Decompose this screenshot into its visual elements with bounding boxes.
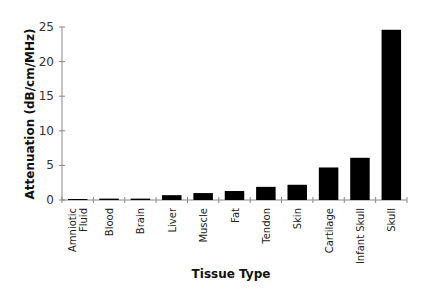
x-tick-label: Infant Skull xyxy=(355,208,366,264)
x-tick-label: Fat xyxy=(230,208,241,223)
x-tick-label: Skin xyxy=(292,208,303,229)
bar xyxy=(68,199,88,200)
x-tick-label: Blood xyxy=(104,208,115,236)
bar xyxy=(193,193,213,200)
x-tick-label: Muscle xyxy=(198,208,209,243)
x-tick-label: Tendon xyxy=(261,208,272,245)
bars xyxy=(68,30,401,200)
x-tick-label: Fluid xyxy=(78,208,89,232)
bar xyxy=(162,195,182,200)
bar xyxy=(287,185,307,200)
y-tick-label: 20 xyxy=(39,55,54,69)
y-tick-label: 25 xyxy=(39,20,54,34)
bar xyxy=(319,167,339,200)
bar xyxy=(382,30,402,200)
bar xyxy=(99,199,119,200)
bar xyxy=(350,158,370,200)
x-tick-label: Brain xyxy=(135,208,146,234)
bar xyxy=(256,187,276,200)
y-tick-label: 10 xyxy=(39,124,54,138)
x-axis: AmnioticFluidBloodBrainLiverMuscleFatTen… xyxy=(62,197,407,264)
x-axis-title: Tissue Type xyxy=(192,267,271,281)
x-tick-label: Skull xyxy=(386,208,397,232)
bar xyxy=(131,199,151,200)
y-tick-label: 15 xyxy=(39,89,54,103)
x-tick-label: Cartilage xyxy=(324,208,335,253)
bar xyxy=(225,191,245,200)
bar-chart: 0510152025 AmnioticFluidBloodBrainLiverM… xyxy=(0,0,426,293)
y-axis-title: Attenuation (dB/cm/MHz) xyxy=(23,29,37,200)
y-tick-label: 5 xyxy=(46,158,54,172)
x-tick-label: Liver xyxy=(167,207,178,232)
y-tick-label: 0 xyxy=(46,193,54,207)
x-tick-label: Amniotic xyxy=(67,208,78,252)
y-axis: 0510152025 xyxy=(39,20,65,207)
